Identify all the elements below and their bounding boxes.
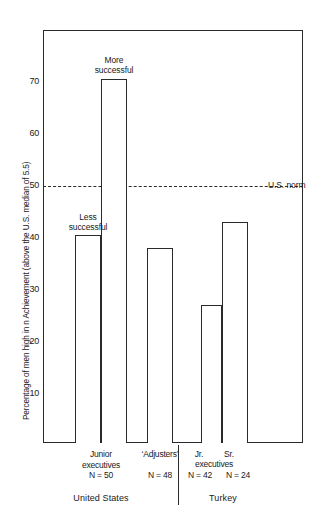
annotation-less-successful-line2: successful xyxy=(69,222,108,232)
annotation-more-successful-line2: successful xyxy=(95,65,134,75)
xlabel-turkey-executives: executives xyxy=(184,459,244,470)
xlabel-turkey-jr-n: N = 42 xyxy=(181,470,219,481)
bar-us-junior-less-successful xyxy=(75,235,101,443)
xlabel-us-junior-line1: Junior xyxy=(90,449,112,459)
country-label-united-states: United States xyxy=(70,493,132,503)
xlabel-turkey-sr: Sr. xyxy=(214,449,244,460)
xlabel-us-junior-executives: Junior executives xyxy=(71,449,131,470)
xlabel-us-adjusters: ‘Adjusters’ xyxy=(130,449,190,460)
y-tick-label-70: 70 xyxy=(29,77,39,86)
y-tick-label-50: 50 xyxy=(29,181,39,190)
country-divider xyxy=(178,445,179,505)
country-label-turkey: Turkey xyxy=(192,493,254,503)
y-tick-label-30: 30 xyxy=(29,285,39,294)
us-norm-reference-line xyxy=(43,186,303,187)
y-tick-label-10: 10 xyxy=(29,389,39,398)
xlabel-us-junior-line2: executives xyxy=(82,460,120,470)
y-axis-label-container: Percentage of men high in n Achievement … xyxy=(0,0,32,443)
annotation-more-successful-line1: More xyxy=(105,55,124,65)
y-tick-label-60: 60 xyxy=(29,129,39,138)
xlabel-us-junior-n: N = 50 xyxy=(71,470,131,481)
annotation-less-successful: Less successful xyxy=(58,212,118,232)
y-tick-label-40: 40 xyxy=(29,233,39,242)
bar-us-adjusters xyxy=(147,248,173,443)
xlabel-turkey-jr: Jr. xyxy=(184,449,214,460)
bar-chart-figure: Percentage of men high in n Achievement … xyxy=(0,0,322,523)
bar-turkey-sr-executives xyxy=(222,222,248,443)
us-norm-label: U.S. norm xyxy=(268,181,305,190)
annotation-more-successful: More successful xyxy=(84,55,144,75)
annotation-less-successful-line1: Less xyxy=(79,212,97,222)
bar-us-junior-more-successful xyxy=(101,79,127,443)
bar-turkey-jr-executives xyxy=(201,305,222,443)
xlabel-turkey-sr-n: N = 24 xyxy=(219,470,257,481)
y-tick-label-20: 20 xyxy=(29,337,39,346)
